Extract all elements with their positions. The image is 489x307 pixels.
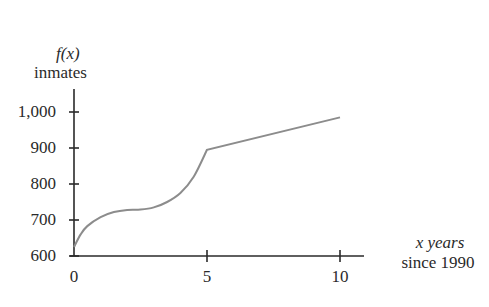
y-axis-label-function: f(x) [56,44,80,64]
y-axis-label-units: inmates [34,63,87,83]
y-tick-label: 600 [0,247,56,265]
y-tick-label: 700 [0,211,56,229]
y-tick-label: 900 [0,139,56,157]
chart: f(x) inmates 6007008009001,000 0510 x ye… [0,0,489,307]
y-tick-label: 800 [0,175,56,193]
x-tick-label: 10 [325,268,355,286]
x-tick-label: 5 [192,268,222,286]
x-axis-label-line1: x years [416,233,465,252]
x-axis-label: x years [390,233,489,253]
y-tick-label: 1,000 [0,103,56,121]
data-line-fx [74,117,340,247]
x-axis-label-line2: since 1990 [383,253,489,273]
x-tick-label: 0 [59,268,89,286]
